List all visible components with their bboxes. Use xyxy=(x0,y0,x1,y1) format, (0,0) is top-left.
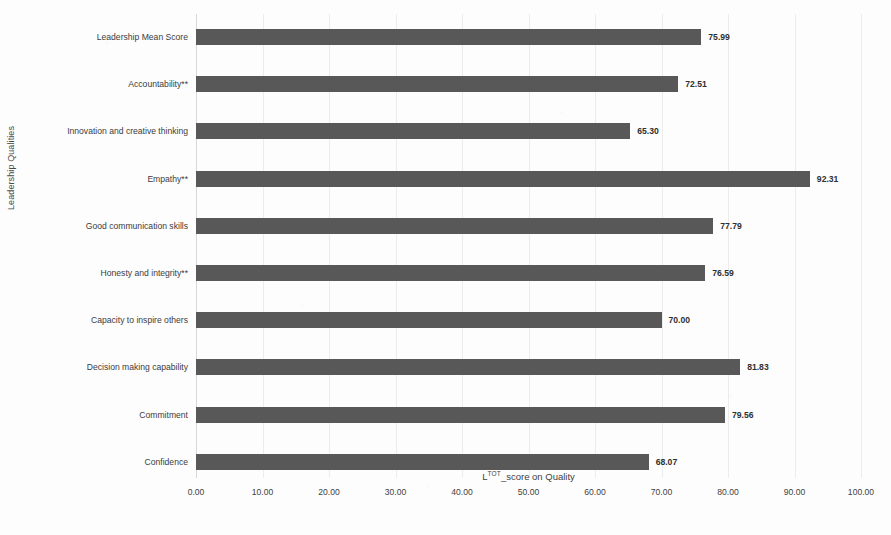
bar-value-label: 70.00 xyxy=(669,315,691,325)
bar xyxy=(196,265,705,281)
bar-value-label: 76.59 xyxy=(712,268,734,278)
bar-row: Empathy**92.31 xyxy=(196,171,861,187)
bar xyxy=(196,407,725,423)
bar-value-label: 72.51 xyxy=(685,79,707,89)
x-tick-label: 40.00 xyxy=(451,487,473,497)
category-label: Confidence xyxy=(145,456,188,467)
plot-area: Leadership Mean Score75.99Accountability… xyxy=(196,14,861,478)
bar-value-label: 68.07 xyxy=(656,457,678,467)
bar xyxy=(196,312,662,328)
category-label: Good communication skills xyxy=(86,220,188,231)
bar xyxy=(196,454,649,470)
category-label: Commitment xyxy=(139,409,188,420)
bar-value-label: 92.31 xyxy=(817,174,839,184)
x-axis-title-rest: _score on Quality xyxy=(501,471,575,482)
bar-row: Confidence68.07 xyxy=(196,454,861,470)
y-axis-title: Leadership Qualities xyxy=(6,40,16,210)
x-tick-label: 10.00 xyxy=(252,487,274,497)
category-label: Accountability** xyxy=(128,79,188,90)
x-tick-label: 100.00 xyxy=(848,487,874,497)
bar-chart-figure: Leadership Qualities Leadership Mean Sco… xyxy=(0,0,891,535)
category-label: Capacity to inspire others xyxy=(91,315,188,326)
x-axis-title: LTOT_score on Quality xyxy=(196,470,861,482)
x-tick-label: 0.00 xyxy=(188,487,205,497)
category-label: Decision making capability xyxy=(87,362,188,373)
x-tick-label: 30.00 xyxy=(385,487,407,497)
bar-row: Good communication skills77.79 xyxy=(196,218,861,234)
bar xyxy=(196,359,740,375)
bar-row: Innovation and creative thinking65.30 xyxy=(196,123,861,139)
bar xyxy=(196,171,810,187)
bar-row: Commitment79.56 xyxy=(196,407,861,423)
x-axis-title-superscript: TOT xyxy=(487,470,500,477)
bar-value-label: 65.30 xyxy=(637,126,659,136)
x-tick-label: 90.00 xyxy=(784,487,806,497)
bar xyxy=(196,218,713,234)
bar-row: Honesty and integrity**76.59 xyxy=(196,265,861,281)
bar xyxy=(196,76,678,92)
bar xyxy=(196,29,701,45)
x-tick-label: 50.00 xyxy=(518,487,540,497)
bar-value-label: 77.79 xyxy=(720,221,742,231)
bar-value-label: 75.99 xyxy=(708,32,730,42)
bar xyxy=(196,123,630,139)
category-label: Leadership Mean Score xyxy=(97,32,188,43)
category-label: Innovation and creative thinking xyxy=(67,126,188,137)
x-tick-label: 80.00 xyxy=(717,487,739,497)
bar-row: Accountability**72.51 xyxy=(196,76,861,92)
x-tick-label: 60.00 xyxy=(584,487,606,497)
x-tick-label: 70.00 xyxy=(651,487,673,497)
x-tick-label: 20.00 xyxy=(318,487,340,497)
bar-value-label: 81.83 xyxy=(747,362,769,372)
category-label: Empathy** xyxy=(147,173,188,184)
category-label: Honesty and integrity** xyxy=(101,268,188,279)
bar-value-label: 79.56 xyxy=(732,410,754,420)
bar-row: Leadership Mean Score75.99 xyxy=(196,29,861,45)
x-axis-tick-labels: 0.0010.0020.0030.0040.0050.0060.0070.008… xyxy=(196,487,861,503)
gridline xyxy=(861,14,862,478)
bar-row: Decision making capability81.83 xyxy=(196,359,861,375)
bar-row: Capacity to inspire others70.00 xyxy=(196,312,861,328)
